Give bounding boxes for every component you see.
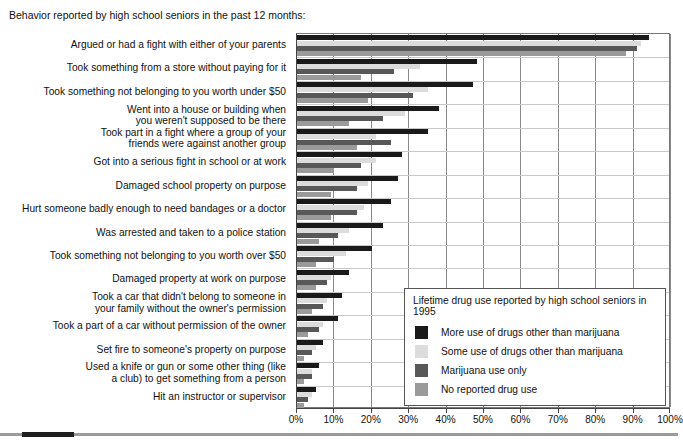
bar <box>297 345 316 350</box>
chart-caption: Behavior reported by high school seniors… <box>9 9 306 21</box>
bar <box>297 304 323 309</box>
bar <box>297 270 349 275</box>
band-separator <box>297 198 669 199</box>
bar <box>297 374 312 379</box>
bar <box>297 257 334 262</box>
bar <box>297 106 439 111</box>
bar <box>297 140 391 145</box>
bar <box>297 369 312 374</box>
axis-tick-label: 90% <box>623 414 643 425</box>
bar <box>297 356 304 361</box>
bar <box>297 210 357 215</box>
legend-swatch <box>415 383 428 396</box>
axis-tick-label: 10% <box>323 414 343 425</box>
band-separator <box>297 104 669 105</box>
bar <box>297 223 383 228</box>
gridline <box>670 34 671 407</box>
category-label: Took a car that didn't belong to someone… <box>92 291 286 314</box>
axis-tick-label: 0% <box>289 414 303 425</box>
bar <box>297 228 349 233</box>
legend-items: More use of drugs other than marijuanaSo… <box>413 323 657 399</box>
bar <box>297 152 402 157</box>
bar <box>297 379 304 384</box>
bar <box>297 51 626 56</box>
bar <box>297 293 342 298</box>
bar <box>297 285 316 290</box>
bar <box>297 392 312 397</box>
category-label: Took something not belonging to you wort… <box>44 86 286 97</box>
legend-swatch <box>415 345 428 358</box>
bar <box>297 163 361 168</box>
legend-box: Lifetime drug use reported by high schoo… <box>404 288 666 406</box>
category-label: Used a knife or gun or some other thing … <box>86 361 286 384</box>
axis-tick-label: 60% <box>510 414 530 425</box>
band-separator <box>297 57 669 58</box>
axis-tick <box>595 408 596 413</box>
bar <box>297 350 312 355</box>
legend-swatch <box>415 364 428 377</box>
category-label: Took part in a fight where a group of yo… <box>101 127 286 150</box>
band-separator <box>297 245 669 246</box>
category-label: Set fire to someone's property on purpos… <box>97 344 286 355</box>
bar <box>297 41 641 46</box>
band-separator <box>297 222 669 223</box>
bar <box>297 145 357 150</box>
bar <box>297 116 383 121</box>
bar <box>297 397 308 402</box>
axis-tick-label: 100% <box>657 414 683 425</box>
bar <box>297 199 391 204</box>
category-label: Damaged property at work on purpose <box>112 273 286 284</box>
axis-tick-label: 40% <box>436 414 456 425</box>
axis-tick-label: 70% <box>548 414 568 425</box>
bar <box>297 93 413 98</box>
legend-item: Marijuana use only <box>413 361 657 380</box>
axis-tick <box>333 408 334 413</box>
axis-tick <box>371 408 372 413</box>
axis-tick-label: 50% <box>473 414 493 425</box>
axis-tick <box>296 408 297 413</box>
bar <box>297 176 398 181</box>
legend-label: No reported drug use <box>441 384 537 395</box>
bar <box>297 298 327 303</box>
legend-title: Lifetime drug use reported by high schoo… <box>413 295 657 318</box>
category-label: Took something not belonging to you wort… <box>50 250 286 261</box>
legend-label: Marijuana use only <box>441 365 527 376</box>
bar <box>297 69 394 74</box>
bar <box>297 262 316 267</box>
axis-tick-label: 30% <box>398 414 418 425</box>
bar <box>297 87 428 92</box>
axis-tick <box>669 408 670 413</box>
bar <box>297 246 372 251</box>
bar <box>297 239 319 244</box>
bar <box>297 233 338 238</box>
bar <box>297 168 334 173</box>
bar <box>297 340 323 345</box>
bar <box>297 129 428 134</box>
bar <box>297 275 331 280</box>
bar <box>297 403 304 408</box>
band-separator <box>297 175 669 176</box>
bar <box>297 192 331 197</box>
legend-swatch <box>415 326 428 339</box>
bar <box>297 134 376 139</box>
category-label: Went into a house or building when you w… <box>127 104 286 127</box>
bar <box>297 35 649 40</box>
legend-item: More use of drugs other than marijuana <box>413 323 657 342</box>
legend-item: Some use of drugs other than marijuana <box>413 342 657 361</box>
axis-tick-label: 80% <box>585 414 605 425</box>
bar <box>297 332 308 337</box>
footer-rule <box>0 433 678 436</box>
bar <box>297 205 364 210</box>
bar <box>297 186 357 191</box>
bar <box>297 280 327 285</box>
bar <box>297 121 349 126</box>
axis-tick <box>408 408 409 413</box>
bar <box>297 181 368 186</box>
bar <box>297 316 338 321</box>
axis-tick <box>633 408 634 413</box>
bar <box>297 158 376 163</box>
bar <box>297 322 323 327</box>
axis-tick <box>446 408 447 413</box>
category-label: Hurt someone badly enough to need bandag… <box>22 203 286 214</box>
